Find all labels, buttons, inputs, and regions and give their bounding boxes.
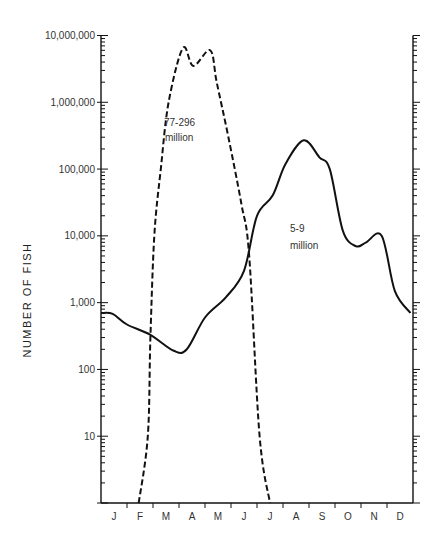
x-month-label: J bbox=[112, 511, 117, 522]
x-month-label: N bbox=[370, 511, 377, 522]
x-month-label: S bbox=[319, 511, 326, 522]
annotation-dashed-range: 77-296 bbox=[164, 117, 196, 128]
x-month-label: F bbox=[137, 511, 143, 522]
annotation-solid-range: 5-9 bbox=[290, 223, 305, 234]
y-tick-label: 1,000,000 bbox=[51, 97, 96, 108]
series-77-296-million bbox=[139, 47, 270, 503]
y-tick-labels: 101001,00010,000100,0001,000,00010,000,0… bbox=[45, 30, 95, 442]
x-month-label: A bbox=[189, 511, 196, 522]
annotation-solid-unit: million bbox=[290, 240, 318, 251]
x-month-label: A bbox=[293, 511, 300, 522]
y-tick-label: 100 bbox=[78, 364, 95, 375]
x-month-label: J bbox=[242, 511, 247, 522]
annotation-dashed-unit: million bbox=[165, 132, 193, 143]
axes bbox=[101, 36, 413, 504]
x-month-label: O bbox=[344, 511, 352, 522]
x-month-label: J bbox=[268, 511, 273, 522]
y-tick-label: 1,000 bbox=[70, 297, 95, 308]
x-month-labels: JFMAMJJASOND bbox=[112, 511, 404, 522]
y-tick-label: 100,000 bbox=[59, 164, 96, 175]
fish-count-chart: 101001,00010,000100,0001,000,00010,000,0… bbox=[0, 0, 441, 544]
y-tick-label: 10,000,000 bbox=[45, 30, 95, 41]
y-tick-label: 10,000 bbox=[64, 230, 95, 241]
y-tick-label: 10 bbox=[84, 431, 96, 442]
x-month-label: M bbox=[162, 511, 170, 522]
y-axis-title: NUMBER OF FISH bbox=[21, 242, 33, 357]
ticks bbox=[97, 36, 420, 509]
x-month-label: D bbox=[396, 511, 403, 522]
series-5-9-million bbox=[101, 140, 410, 353]
x-month-label: M bbox=[214, 511, 222, 522]
